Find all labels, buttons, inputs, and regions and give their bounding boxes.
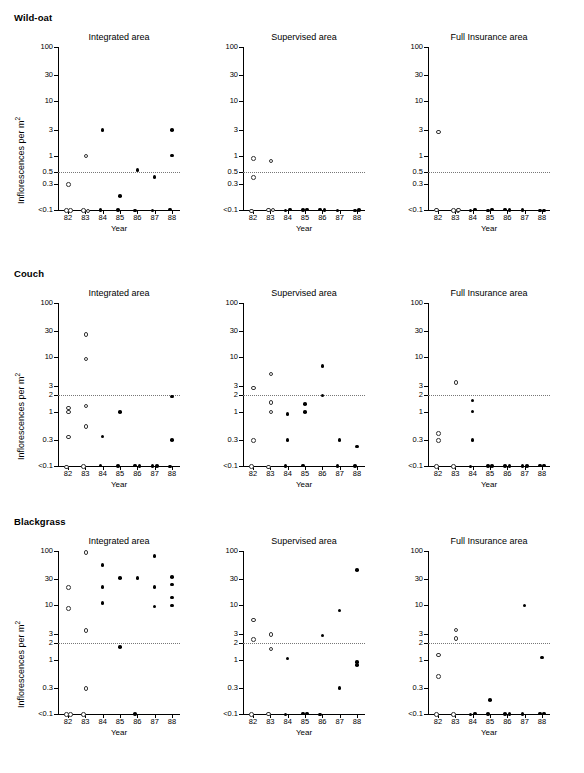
y-tick-0-1-3 [239, 130, 243, 131]
panel-title-2-0: Integrated area [48, 536, 190, 546]
data-point-closed [170, 604, 174, 608]
data-point-closed [338, 609, 342, 613]
y-tick-label-1-2-4: 2 [390, 391, 423, 399]
y-tick-label-1-0-1: 30 [20, 327, 53, 335]
y-tick-label-0-0-0: 100 [20, 43, 53, 51]
y-axis-line-0-2 [428, 47, 429, 210]
data-point-closed [170, 438, 174, 442]
data-point-open [66, 182, 71, 187]
threshold-line-2-0 [58, 643, 180, 644]
data-point-closed [101, 128, 105, 132]
x-axis-label-2-0: Year [58, 728, 180, 737]
data-point-closed [542, 209, 546, 213]
row-header-blackgrass: Blackgrass [14, 516, 66, 527]
y-tick-label-0-1-7: <0.1 [205, 206, 238, 214]
data-point-open [436, 653, 441, 658]
y-tick-0-2-0 [424, 47, 428, 48]
data-point-closed [288, 208, 292, 212]
y-tick-label-2-2-0: 100 [390, 547, 423, 555]
data-point-open [266, 712, 271, 717]
data-point-open [436, 431, 441, 436]
y-tick-label-1-1-3: 3 [205, 382, 238, 390]
data-point-closed [170, 395, 174, 399]
y-tick-label-1-1-2: 10 [205, 353, 238, 361]
data-point-open [84, 404, 89, 409]
panel-title-0-0: Integrated area [48, 32, 190, 42]
y-tick-0-2-7 [424, 210, 428, 211]
data-point-open [66, 585, 71, 590]
y-tick-label-0-1-4: 1 [205, 152, 238, 160]
data-point-open [271, 208, 276, 213]
y-tick-2-1-7 [239, 714, 243, 715]
data-point-closed [284, 464, 288, 468]
data-point-closed [136, 576, 140, 580]
x-axis-line-2-0 [58, 714, 180, 715]
data-point-closed [170, 596, 174, 600]
y-axis-label-1: Inflorescences per m2 [14, 373, 26, 460]
y-tick-1-0-1 [54, 331, 58, 332]
y-axis-line-1-2 [428, 303, 429, 466]
y-tick-label-2-0-2: 10 [20, 601, 53, 609]
y-axis-label-2: Inflorescences per m2 [14, 621, 26, 708]
threshold-line-0-0 [58, 172, 180, 173]
data-point-closed [101, 585, 105, 589]
y-tick-label-1-2-0: 100 [390, 299, 423, 307]
y-tick-1-1-5 [239, 412, 243, 413]
y-tick-label-2-1-0: 100 [205, 547, 238, 555]
y-tick-1-0-3 [54, 386, 58, 387]
data-point-open [269, 400, 274, 405]
y-tick-label-2-1-3: 3 [205, 630, 238, 638]
y-tick-0-1-6 [239, 184, 243, 185]
data-point-closed [133, 712, 137, 716]
y-tick-label-1-1-4: 2 [205, 391, 238, 399]
data-point-closed [473, 208, 477, 212]
y-tick-1-1-0 [239, 303, 243, 304]
data-point-closed [353, 209, 357, 213]
data-point-closed [301, 712, 305, 716]
data-point-closed [488, 698, 492, 702]
y-tick-label-1-1-0: 100 [205, 299, 238, 307]
y-tick-label-2-1-5: 1 [205, 656, 238, 664]
data-point-closed [321, 364, 325, 368]
y-tick-label-1-1-7: <0.1 [205, 462, 238, 470]
x-tick-label-2-0-6: 88 [162, 718, 182, 726]
data-point-closed [523, 604, 527, 608]
data-point-closed [153, 175, 157, 179]
y-tick-0-0-1 [54, 75, 58, 76]
data-point-closed [153, 585, 157, 589]
y-tick-label-2-1-1: 30 [205, 575, 238, 583]
data-point-open [436, 438, 441, 443]
y-tick-0-0-0 [54, 47, 58, 48]
data-point-open [251, 438, 256, 443]
data-point-closed [338, 438, 342, 442]
y-tick-0-0-4 [54, 156, 58, 157]
data-point-closed [116, 464, 120, 468]
y-tick-label-0-2-3: 3 [390, 126, 423, 134]
figure-canvas: Wild-oatCouchBlackgrassIntegrated area10… [0, 0, 584, 773]
y-tick-2-0-1 [54, 579, 58, 580]
data-point-open [454, 636, 459, 641]
data-point-open [81, 464, 86, 469]
y-tick-1-1-2 [239, 357, 243, 358]
data-point-closed [471, 399, 475, 403]
y-tick-2-2-3 [424, 634, 428, 635]
y-tick-1-0-7 [54, 466, 58, 467]
data-point-closed [170, 583, 174, 587]
x-axis-label-1-2: Year [428, 480, 550, 489]
data-point-closed [118, 194, 122, 198]
data-point-closed [118, 410, 122, 414]
y-tick-label-2-2-4: 2 [390, 639, 423, 647]
data-point-open [454, 380, 459, 385]
data-point-open [269, 159, 274, 164]
data-point-closed [490, 464, 494, 468]
data-point-closed [540, 656, 544, 660]
y-tick-0-1-2 [239, 101, 243, 102]
x-tick-label-0-0-6: 88 [162, 214, 182, 222]
x-axis-label-0-1: Year [243, 224, 365, 233]
y-tick-2-0-6 [54, 688, 58, 689]
data-point-open [251, 637, 256, 642]
data-point-open [451, 712, 456, 717]
data-point-open [68, 208, 73, 213]
y-tick-0-0-2 [54, 101, 58, 102]
data-point-closed [136, 168, 140, 172]
